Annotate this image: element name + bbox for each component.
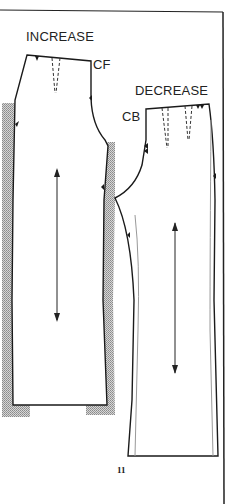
back-pattern-piece [115, 104, 218, 456]
front-pattern-piece [12, 55, 108, 405]
decrease-label: DECREASE [135, 83, 208, 98]
cb-label: CB [122, 109, 140, 124]
page-number: 11 [117, 465, 126, 475]
right-border [223, 12, 224, 504]
top-border [0, 10, 223, 12]
cf-label: CF [93, 57, 111, 72]
increase-label: INCREASE [26, 29, 94, 44]
pattern-diagram [0, 0, 232, 504]
